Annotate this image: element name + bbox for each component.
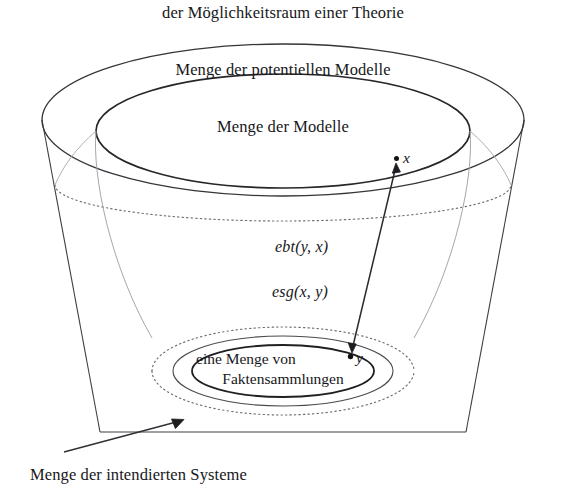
figure-title: der Möglichkeitsraum einer Theorie <box>0 4 566 22</box>
label-potential-models: Menge der potentiellen Modelle <box>0 61 566 79</box>
caption-intended-systems: Menge der intendierten Systeme <box>30 466 247 484</box>
relation-connector-line <box>352 166 396 350</box>
relation-esg-label: esg(x, y) <box>272 283 328 300</box>
caption-leader-arrowhead <box>172 419 185 429</box>
label-facts-line1: eine Menge von <box>196 350 336 368</box>
point-x-marker <box>394 156 399 161</box>
inner-funnel-left-curve <box>95 131 152 338</box>
point-x-label: x <box>403 150 410 167</box>
arrowhead-toward-x <box>392 163 400 173</box>
inner-funnel-right-curve <box>414 131 471 338</box>
point-y-marker <box>348 354 353 359</box>
caption-leader-line <box>64 421 180 452</box>
figure-canvas: der Möglichkeitsraum einer Theorie Menge… <box>0 0 566 499</box>
label-models: Menge der Modelle <box>0 118 566 136</box>
point-y-label: y <box>356 350 363 367</box>
outer-rim-hidden-dotted-arc <box>55 185 511 221</box>
label-facts-line2: Faktensammlungen <box>0 370 566 388</box>
outer-rim-back-arc <box>42 44 524 120</box>
models-ellipse-front-arc <box>96 131 470 188</box>
relation-ebt-label: ebt(y, x) <box>275 238 328 255</box>
